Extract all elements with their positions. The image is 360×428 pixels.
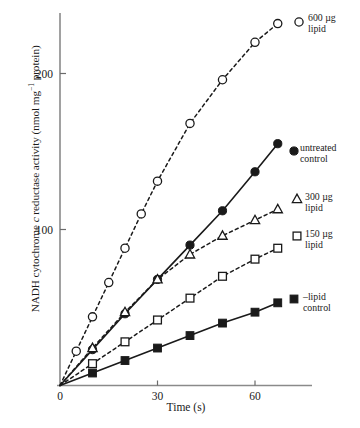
data-point-lipid-control-6 [251, 308, 259, 316]
series-label-untreated-control-line2: control [300, 154, 336, 165]
y-axis-title-tail: protein) [29, 45, 41, 83]
series-label-600ug-lipid-line1: 600 µg [308, 12, 336, 23]
data-point-150-g-lipid-2 [121, 338, 129, 346]
data-point-lipid-control-5 [219, 319, 227, 327]
series-label-no-lipid-control-line1: –lipid [303, 291, 326, 302]
y-axis-title-superscript: −1 [27, 83, 36, 91]
data-point-150-g-lipid-3 [154, 316, 162, 324]
x-axis-title: Time (s) [167, 401, 206, 414]
series-label-150ug-lipid: 150 µg lipid [305, 229, 333, 250]
data-point-600-g-lipid-2 [88, 313, 96, 321]
series-label-untreated-control-line1: untreated [300, 142, 336, 153]
chart-figure: 03060100200 Time (s) NADH cytochrome c r… [0, 0, 360, 428]
data-point-150-g-lipid-7 [274, 244, 282, 252]
data-point-untreated-control-6 [251, 168, 259, 176]
legend-marker-untreated-control [290, 147, 298, 155]
data-point-600-g-lipid-9 [251, 38, 259, 46]
series-label-300ug-lipid-line2: lipid [305, 203, 333, 214]
y-axis-title-pre: NADH cytochrome [29, 222, 41, 312]
data-point-150-g-lipid-4 [186, 294, 194, 302]
series-label-600ug-lipid-line2: lipid [308, 24, 336, 35]
data-point-lipid-control-2 [121, 357, 129, 365]
series-label-untreated-control: untreated control [300, 143, 336, 164]
x-tick-label-30: 30 [152, 390, 164, 402]
data-point-600-g-lipid-7 [186, 119, 194, 127]
data-point-600-g-lipid-4 [121, 244, 129, 252]
data-point-150-g-lipid-1 [89, 360, 97, 368]
data-point-600-g-lipid-10 [274, 19, 282, 27]
x-tick-label-0: 0 [57, 390, 63, 402]
data-point-600-g-lipid-6 [153, 177, 161, 185]
data-point-untreated-control-4 [186, 241, 194, 249]
series-label-300ug-lipid-line1: 300 µg [305, 191, 333, 202]
data-point-untreated-control-7 [274, 140, 282, 148]
plot-background [0, 0, 360, 428]
data-point-600-g-lipid-5 [137, 210, 145, 218]
nadh-reductase-activity-plot: 03060100200 Time (s) [0, 0, 360, 428]
series-label-no-lipid-control: –lipid control [303, 292, 331, 313]
legend-marker-600ug-lipid [295, 18, 303, 26]
data-point-untreated-control-5 [218, 207, 226, 215]
data-point-lipid-control-3 [154, 344, 162, 352]
series-label-150ug-lipid-line1: 150 µg [305, 228, 333, 239]
data-point-lipid-control-1 [89, 369, 97, 377]
y-axis-title: NADH cytochrome c reductase activity (nm… [27, 29, 41, 329]
data-point-600-g-lipid-1 [72, 347, 80, 355]
data-point-600-g-lipid-3 [105, 278, 113, 286]
data-point-lipid-control-4 [186, 332, 194, 340]
y-axis-title-italic: c [29, 217, 41, 222]
series-label-150ug-lipid-line2: lipid [305, 240, 333, 251]
series-label-600ug-lipid: 600 µg lipid [308, 13, 336, 34]
data-point-600-g-lipid-8 [218, 76, 226, 84]
data-point-150-g-lipid-5 [219, 272, 227, 280]
y-axis-title-post: reductase activity (nmol mg [29, 91, 41, 217]
series-label-300ug-lipid: 300 µg lipid [305, 192, 333, 213]
data-point-lipid-control-7 [274, 299, 282, 307]
x-tick-label-60: 60 [249, 390, 261, 402]
series-label-no-lipid-control-line2: control [303, 303, 331, 314]
data-point-150-g-lipid-6 [251, 255, 259, 263]
legend-marker-no-lipid-control [290, 295, 298, 303]
legend-marker-150ug-lipid [293, 232, 301, 240]
